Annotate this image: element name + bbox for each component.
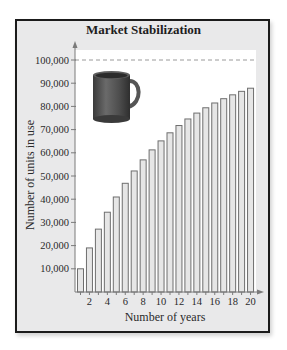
y-axis-arrow-icon: [73, 41, 78, 48]
bar-year-3: [95, 229, 101, 292]
bar-year-7: [131, 171, 137, 292]
x-axis-arrow-icon: [257, 290, 264, 295]
x-tick-label: 12: [174, 296, 185, 307]
x-tick-label: 16: [210, 296, 221, 307]
x-tick-label: 14: [192, 296, 203, 307]
bar-year-2: [86, 248, 92, 292]
y-ticks: 10,00020,00030,00040,00050,00060,00070,0…: [35, 55, 76, 275]
bar-year-4: [104, 212, 110, 292]
x-tick-label: 6: [123, 296, 128, 307]
bar-year-17: [221, 99, 227, 292]
x-ticks: 2468101214161820: [81, 292, 256, 307]
x-tick-label: 2: [87, 296, 92, 307]
bar-year-1: [78, 269, 84, 292]
bar-year-18: [230, 95, 236, 292]
bar-year-20: [248, 88, 254, 292]
bar-year-15: [203, 108, 209, 292]
bar-year-13: [185, 119, 191, 292]
y-tick-label: 90,000: [40, 78, 69, 89]
bar-year-19: [239, 91, 245, 292]
y-tick-label: 40,000: [40, 194, 69, 205]
y-tick-label: 10,000: [40, 263, 69, 274]
y-axis-label: Number of units in use: [23, 120, 38, 230]
y-tick-label: 60,000: [40, 147, 69, 158]
x-tick-label: 10: [156, 296, 167, 307]
bar-year-11: [167, 133, 173, 292]
x-tick-label: 18: [227, 296, 238, 307]
bar-year-10: [158, 141, 164, 292]
bar-year-14: [194, 113, 200, 292]
bar-year-16: [212, 103, 218, 292]
y-tick-label: 20,000: [40, 240, 69, 251]
bar-year-9: [149, 150, 155, 292]
x-tick-label: 20: [245, 296, 256, 307]
x-tick-label: 4: [105, 296, 111, 307]
bar-year-5: [113, 197, 119, 292]
y-tick-label: 80,000: [40, 101, 69, 112]
y-tick-label: 100,000: [35, 55, 69, 66]
chart-plot: 10,00020,00030,00040,00050,00060,00070,0…: [0, 0, 287, 350]
bar-year-6: [122, 183, 128, 292]
y-tick-label: 50,000: [40, 171, 69, 182]
x-axis-label: Number of years: [125, 310, 206, 325]
bar-year-8: [140, 160, 146, 292]
bar-year-12: [176, 126, 182, 292]
y-tick-label: 30,000: [40, 217, 69, 228]
y-tick-label: 70,000: [40, 124, 69, 135]
x-tick-label: 8: [141, 296, 146, 307]
